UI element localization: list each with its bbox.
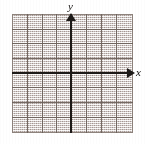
y-axis-label: y bbox=[68, 1, 73, 12]
x-axis-line bbox=[12, 72, 133, 74]
x-axis-arrow-icon bbox=[127, 68, 135, 78]
y-axis-line bbox=[70, 14, 72, 133]
coordinate-plane-figure: y x bbox=[0, 0, 145, 144]
x-axis-label: x bbox=[136, 67, 141, 78]
y-axis-arrow-icon bbox=[66, 13, 76, 21]
